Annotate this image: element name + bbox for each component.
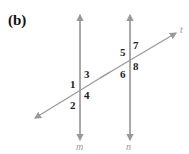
angle-2: 2 [70,99,76,111]
label-m: m [76,141,83,152]
angle-5: 5 [120,46,126,58]
label-n: n [126,141,131,152]
angle-1: 1 [70,78,76,90]
angle-4: 4 [84,89,90,101]
angle-7: 7 [133,39,139,51]
angle-8: 8 [133,60,139,72]
angle-3: 3 [84,68,90,80]
parallel-lines-diagram: (b) t m n 1 2 3 4 5 6 7 8 [0,0,189,154]
label-t: t [180,24,183,35]
angle-6: 6 [120,68,126,80]
figure-label: (b) [8,12,26,29]
